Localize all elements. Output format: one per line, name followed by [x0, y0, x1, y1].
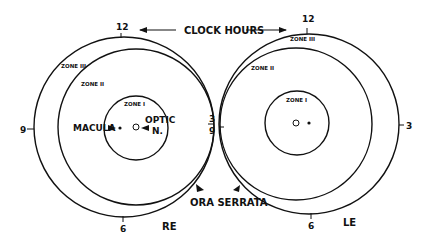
- re-zone1-label: ZONE I: [124, 101, 145, 107]
- le-hour-3: 3: [406, 121, 412, 131]
- re-hour-3: 3: [209, 114, 215, 124]
- re-zone2-label: ZONE II: [81, 81, 104, 87]
- le-label: LE: [343, 217, 356, 228]
- optic-pointer-icon: [141, 125, 149, 131]
- le-hour-12: 12: [302, 14, 315, 24]
- optic-label: OPTIC: [145, 115, 176, 125]
- le-macula-dot-icon: [307, 121, 310, 124]
- retina-zones-diagram: CLOCK HOURS 12 9 6 3 ZONE III ZONE II ZO…: [0, 0, 424, 247]
- clock-hours-title: CLOCK HOURS: [140, 25, 286, 36]
- re-label: RE: [162, 221, 177, 232]
- le-zone2-ring: [220, 48, 372, 200]
- le-zone3-label: ZONE III: [290, 36, 315, 42]
- le-zone1-label: ZONE I: [286, 97, 307, 103]
- optic-n-label: N.: [152, 126, 163, 136]
- le-hour-9: 9: [209, 126, 215, 136]
- ora-serrata-annotation: ORA SERRATA: [190, 184, 268, 208]
- re-zone3-label: ZONE III: [61, 63, 86, 69]
- optic-disc-icon: [133, 124, 139, 130]
- le-optic-disc-icon: [293, 120, 299, 126]
- le-hour-6: 6: [308, 221, 314, 231]
- re-hour-6: 6: [120, 224, 126, 234]
- re-hour-9: 9: [20, 125, 26, 135]
- ora-serrata-label: ORA SERRATA: [190, 197, 268, 208]
- ora-pointer-left-icon: [196, 184, 204, 192]
- right-eye-diagram: 12 9 6 3 ZONE III ZONE II ZONE I MACULA …: [20, 22, 215, 234]
- ora-pointer-right-icon: [233, 185, 240, 192]
- macula-dot-icon: [118, 126, 121, 129]
- le-zone2-label: ZONE II: [251, 65, 274, 71]
- re-hour-12: 12: [116, 22, 129, 32]
